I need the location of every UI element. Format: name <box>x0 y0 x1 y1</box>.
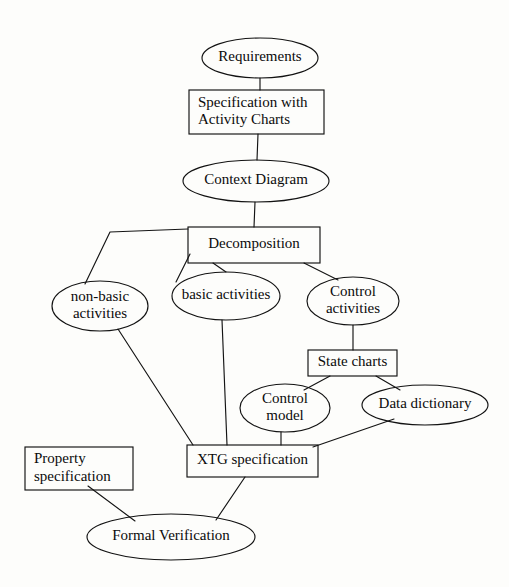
node-decomposition[interactable]: Decomposition <box>188 227 320 263</box>
node-requirements[interactable]: Requirements <box>202 38 318 78</box>
edge-non-basic-activities-to-xtg-specification <box>118 329 193 445</box>
node-state-charts[interactable]: State charts <box>308 350 397 376</box>
edge-specification-to-context-diagram <box>257 134 258 160</box>
node-basic-activities[interactable]: basic activities <box>172 272 280 320</box>
node-formal-verification[interactable]: Formal Verification <box>87 514 255 560</box>
node-context-diagram[interactable]: Context Diagram <box>183 160 329 202</box>
node-label-specification-with-activity-charts-line-1: Specification with <box>198 94 308 110</box>
node-label-state-charts: State charts <box>318 353 388 369</box>
node-label-data-dictionary: Data dictionary <box>379 395 472 411</box>
edge-decomposition-to-non-basic-activities <box>85 229 188 284</box>
node-data-dictionary[interactable]: Data dictionary <box>362 385 488 425</box>
edge-basic-activities-to-xtg-specification <box>222 320 227 445</box>
node-label-control-model-line-1: Control <box>262 390 308 406</box>
edge-property-specification-to-formal-verification <box>88 486 135 521</box>
node-layer: RequirementsSpecification withActivity C… <box>25 38 488 560</box>
edge-state-charts-to-control-model <box>304 376 330 390</box>
node-label-control-activities-line-1: Control <box>330 283 376 299</box>
edge-data-dictionary-to-xtg-specification <box>313 419 394 447</box>
node-specification-with-activity-charts[interactable]: Specification withActivity Charts <box>189 90 324 134</box>
node-label-non-basic-activities-line-2: activities <box>73 305 127 321</box>
node-control-model[interactable]: Controlmodel <box>240 384 330 432</box>
node-control-activities[interactable]: Controlactivities <box>307 277 399 325</box>
node-label-formal-verification: Formal Verification <box>112 527 230 543</box>
edge-decomposition-to-control-activities <box>304 263 338 280</box>
node-label-non-basic-activities-line-1: non-basic <box>71 288 130 304</box>
node-label-property-specification-line-1: Property <box>34 450 86 466</box>
node-non-basic-activities[interactable]: non-basicactivities <box>52 281 148 331</box>
node-label-control-model-line-2: model <box>266 407 304 423</box>
node-label-context-diagram: Context Diagram <box>204 171 308 187</box>
edge-state-charts-to-data-dictionary <box>376 376 400 390</box>
node-label-xtg-specification: XTG specification <box>197 451 309 467</box>
node-label-specification-with-activity-charts-line-2: Activity Charts <box>198 111 290 127</box>
node-label-control-activities-line-2: activities <box>326 300 380 316</box>
node-label-decomposition: Decomposition <box>208 235 300 251</box>
edge-xtg-specification-to-formal-verification <box>216 477 245 520</box>
node-xtg-specification[interactable]: XTG specification <box>187 445 318 477</box>
node-label-property-specification-line-2: specification <box>34 468 111 484</box>
diagram-canvas: RequirementsSpecification withActivity C… <box>0 0 509 587</box>
flow-diagram: RequirementsSpecification withActivity C… <box>0 0 509 587</box>
node-label-requirements: Requirements <box>218 48 301 64</box>
edge-decomposition-to-basic-activities-b <box>213 263 226 272</box>
node-label-basic-activities: basic activities <box>182 286 271 302</box>
node-property-specification[interactable]: Propertyspecification <box>25 447 133 490</box>
edge-context-diagram-to-decomposition <box>254 202 255 227</box>
